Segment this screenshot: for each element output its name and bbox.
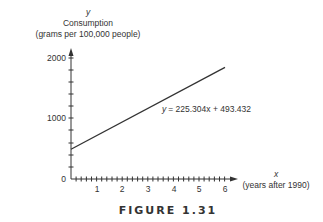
y-tick-label-2000: 2000 [47, 53, 66, 63]
equation-variable: y [161, 104, 167, 114]
y-tick-label-1000: 1000 [47, 113, 66, 123]
figure-caption: FIGURE 1.31 [119, 204, 218, 217]
line-chart: y Consumption (grams per 100,000 people)… [0, 0, 323, 222]
y-axis-unit: (grams per 100,000 people) [36, 29, 141, 39]
x-tick-label-6: 6 [223, 184, 228, 194]
y-axis-arrow-icon [69, 48, 74, 56]
y-axis-variable: y [85, 7, 91, 17]
x-tick-label-1: 1 [95, 184, 100, 194]
x-axis-arrow-icon [230, 177, 238, 182]
x-tick-label-5: 5 [197, 184, 202, 194]
equation-label: y= 225.304x + 493.432 [161, 104, 251, 114]
x-tick-label-3: 3 [146, 184, 151, 194]
y-axis-label: Consumption [63, 18, 113, 28]
x-axis [71, 177, 238, 182]
y-axis [69, 48, 74, 179]
equation-text: = 225.304x + 493.432 [168, 104, 251, 114]
x-tick-label-2: 2 [120, 184, 125, 194]
y-tick-label-0: 0 [61, 174, 66, 184]
x-axis-variable: x [273, 169, 279, 179]
x-axis-label: (years after 1990) [242, 180, 309, 190]
x-tick-label-4: 4 [172, 184, 177, 194]
